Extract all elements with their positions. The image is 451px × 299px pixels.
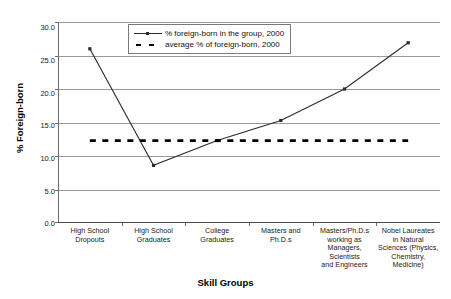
x-category-label-5: Nobel Laureatesin NaturalSciences (Physi…	[376, 227, 440, 270]
y-tick-label-0: 0.0	[25, 219, 55, 228]
legend-entry-average: average % of foreign-born, 2000	[133, 39, 284, 50]
legend-label-series: % foreign-born in the group, 2000	[165, 28, 284, 39]
y-tick-label-1: 5.0	[25, 187, 55, 196]
x-category-label-line: Graduates	[185, 236, 249, 245]
legend-entry-series: % foreign-born in the group, 2000	[133, 28, 284, 39]
chart-container: % Foreign-born 0.0 5.0 10.0 15.0 20.0 25…	[0, 0, 451, 299]
series-marker	[88, 47, 91, 50]
x-tick-mark-5	[376, 223, 377, 226]
x-category-label-line: Dropouts	[58, 236, 122, 245]
series-foreign-born-line	[90, 43, 408, 166]
y-tick-label-4: 20.0	[25, 89, 55, 98]
y-tick-label-5: 25.0	[25, 56, 55, 65]
series-marker	[343, 87, 346, 90]
y-tick-label-2: 10.0	[25, 154, 55, 163]
x-category-label-line: Ph.D.s	[249, 236, 313, 245]
y-tick-label-6: 30.0	[25, 23, 55, 32]
x-category-label-1: High SchoolGraduates	[122, 227, 186, 244]
x-category-label-line: and Engineers	[313, 261, 377, 270]
x-category-label-line: Graduates	[122, 236, 186, 245]
chart-legend: % foreign-born in the group, 2000 averag…	[128, 24, 291, 54]
x-category-label-3: Masters andPh.D.s	[249, 227, 313, 244]
series-marker	[407, 41, 410, 44]
series-marker	[279, 119, 282, 122]
x-tick-mark-3	[249, 223, 250, 226]
x-category-label-2: CollegeGraduates	[185, 227, 249, 244]
y-axis-title-label: % Foreign-born	[14, 58, 25, 178]
x-axis-title: Skill Groups	[0, 277, 451, 288]
series-foreign-born-markers	[88, 41, 410, 167]
x-tick-mark-2	[185, 223, 186, 226]
x-tick-mark-1	[122, 223, 123, 226]
x-category-label-line: Medicine)	[376, 261, 440, 270]
x-category-label-4: Masters/Ph.D.sworking asManagers,Scienti…	[313, 227, 377, 270]
series-marker	[152, 164, 155, 167]
legend-key-dashed-icon	[133, 40, 163, 49]
legend-label-average: average % of foreign-born, 2000	[165, 39, 280, 50]
y-axis-title: % Foreign-born	[14, 0, 25, 58]
x-tick-mark-4	[313, 223, 314, 226]
x-category-label-0: High SchoolDropouts	[58, 227, 122, 244]
y-tick-label-3: 15.0	[25, 121, 55, 130]
legend-key-line-icon	[133, 29, 163, 38]
